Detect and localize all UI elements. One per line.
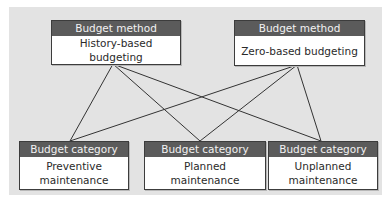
category-node-preventive: Budget category Preventive maintenance bbox=[19, 141, 129, 190]
node-label: History-based budgeting bbox=[52, 36, 180, 64]
method-node-history: Budget method History-based budgeting bbox=[51, 20, 181, 65]
link-history-planned bbox=[113, 64, 200, 141]
category-node-unplanned: Budget category Unplanned maintenance bbox=[268, 141, 378, 190]
node-header: Budget method bbox=[52, 21, 180, 36]
link-zero-preventive bbox=[70, 65, 297, 141]
node-header: Budget category bbox=[20, 142, 128, 157]
link-history-preventive bbox=[70, 64, 113, 141]
node-label: Planned maintenance bbox=[145, 157, 265, 189]
link-zero-planned bbox=[200, 65, 297, 141]
link-zero-unplanned bbox=[297, 65, 321, 141]
node-label: Unplanned maintenance bbox=[269, 157, 377, 189]
method-node-zero: Budget method Zero-based budgeting bbox=[234, 20, 365, 66]
node-header: Budget method bbox=[235, 21, 364, 36]
node-header: Budget category bbox=[269, 142, 377, 157]
node-label: Preventive maintenance bbox=[20, 157, 128, 189]
node-label: Zero-based budgeting bbox=[235, 36, 364, 65]
node-header: Budget category bbox=[145, 142, 265, 157]
category-node-planned: Budget category Planned maintenance bbox=[144, 141, 266, 190]
link-history-unplanned bbox=[113, 64, 321, 141]
